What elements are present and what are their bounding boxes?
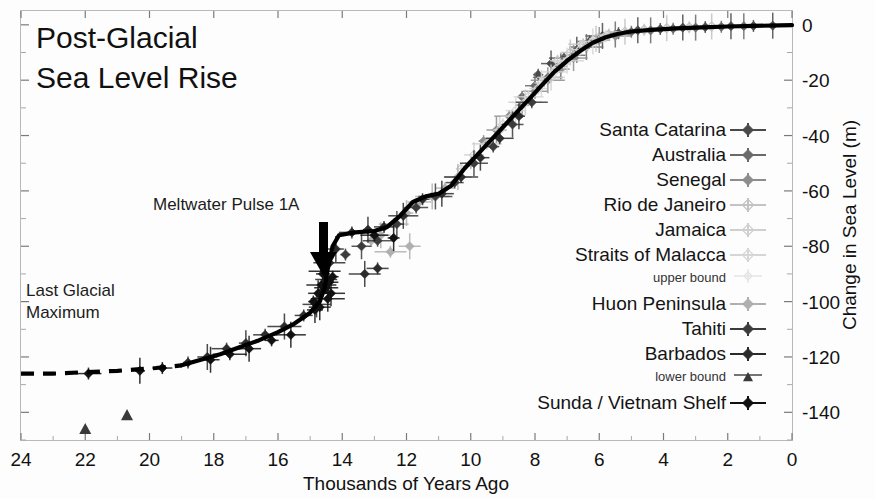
diamond-open-icon [730,223,766,237]
x-axis-tick-label: 6 [594,449,605,470]
y-axis-tick-label: 0 [802,15,813,36]
data-point-marker [286,330,295,339]
data-point-marker [742,124,753,135]
x-axis-tick-label: 4 [658,449,669,470]
legend-item-label: Huon Peninsula [592,293,727,314]
x-axis-tick-label: 16 [267,449,288,470]
data-point-marker [357,242,366,251]
page-title-line2: Sea Level Rise [36,61,238,94]
diamond-with-errorbar-icon [730,322,766,336]
legend-item-rio-de-janeiro[interactable]: Rio de Janeiro [603,194,766,215]
legend-item-barbados[interactable]: Barbados [645,343,766,364]
data-point-marker [742,149,753,160]
x-axis-tick-label: 22 [75,449,96,470]
data-point-marker [121,409,133,420]
legend-item-label: Senegal [656,169,726,190]
data-point-marker [79,423,91,434]
x-axis-tick-label: 24 [10,449,32,470]
y-axis-tick-label: -40 [802,126,829,147]
diamond-with-errorbar-icon [730,148,766,162]
sea-level-plot: 2422201816141210864200-20-40-60-80-100-1… [0,0,875,499]
data-point-marker [742,323,753,334]
legend-item-jamaica[interactable]: Jamaica [655,219,766,240]
legend: Santa CatarinaAustraliaSenegalRio de Jan… [537,119,766,413]
legend-item-senegal[interactable]: Senegal [656,169,766,190]
data-point-marker [373,264,382,273]
chart-figure: 2422201816141210864200-20-40-60-80-100-1… [0,0,875,499]
legend-item-label: upper bound [653,270,726,285]
legend-item-label: Jamaica [655,219,726,240]
x-axis-title: Thousands of Years Ago [303,473,509,494]
y-axis-tick-label: -80 [802,236,829,257]
y-axis-tick-label: -120 [802,347,840,368]
x-axis-tick-label: 2 [722,449,733,470]
diamond-with-errorbar-icon [730,396,766,410]
legend-item-label: Santa Catarina [599,119,726,140]
diamond-open-icon [730,248,766,262]
diamond-with-errorbar-icon [730,347,766,361]
legend-item-label: Barbados [645,343,726,364]
legend-item-santa-catarina[interactable]: Santa Catarina [599,119,766,140]
y-axis-tick-label: -100 [802,292,840,313]
data-point-marker [742,298,753,309]
triangle-with-errorbar-icon [734,372,762,381]
data-series-lower-bound [79,409,133,434]
legend-item-sunda-vietnam-shelf[interactable]: Sunda / Vietnam Shelf [537,392,766,413]
data-point-marker [341,250,350,259]
legend-item-australia[interactable]: Australia [652,144,766,165]
legend-item-label: Rio de Janeiro [603,194,726,215]
diamond-with-errorbar-icon [730,297,766,311]
annotation-lgm-line1: Last Glacial [26,281,115,300]
x-axis-tick-label: 14 [332,449,354,470]
x-axis-tick-label: 20 [139,449,160,470]
diamond-open-small-icon [734,269,762,283]
legend-item-straits-of-malacca[interactable]: Straits of Malacca [575,244,766,265]
x-axis-tick-label: 10 [460,449,481,470]
x-axis-tick-label: 12 [396,449,417,470]
legend-item-label: Tahiti [682,318,726,339]
data-point-marker [405,242,414,251]
legend-item-label: Straits of Malacca [575,244,726,265]
page-title-line1: Post-Glacial [36,21,198,54]
data-point-marker [742,397,753,408]
legend-item-lower-bound[interactable]: lower bound [655,369,762,384]
diamond-with-errorbar-icon [730,173,766,187]
diamond-open-icon [730,198,766,212]
data-point-marker [742,174,753,185]
data-point-marker [743,372,753,381]
legend-item-label: Sunda / Vietnam Shelf [537,392,726,413]
diamond-with-errorbar-icon [730,123,766,137]
y-axis-tick-label: -20 [802,70,829,91]
x-axis-tick-label: 8 [530,449,541,470]
annotation-lgm-line2: Maximum [26,303,100,322]
data-series-sunda-vietnam-shelf [75,225,399,384]
y-axis-title: Change in Sea Level (m) [839,120,860,330]
dashed-curve-segment [21,365,182,373]
data-point-marker [360,269,369,278]
x-axis-tick-label: 18 [203,449,224,470]
x-axis-tick-label: 0 [787,449,798,470]
y-axis-tick-label: -60 [802,181,829,202]
legend-item-label: lower bound [655,369,726,384]
data-point-marker [742,348,753,359]
y-axis-tick-label: -140 [802,402,840,423]
annotation-meltwater-pulse: Meltwater Pulse 1A [153,195,300,214]
legend-item-label: Australia [652,144,726,165]
legend-item-huon-peninsula[interactable]: Huon Peninsula [592,293,766,314]
legend-item-tahiti[interactable]: Tahiti [682,318,766,339]
legend-item-upper-bound[interactable]: upper bound [653,269,762,285]
